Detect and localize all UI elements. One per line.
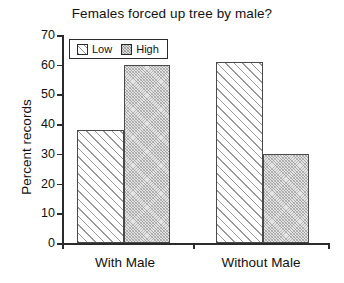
legend-swatch-high-icon [121, 44, 132, 55]
y-axis-spine [62, 35, 64, 243]
y-tick-label-60: 60 [41, 59, 55, 71]
y-axis-label: Percent records [20, 57, 34, 237]
x-axis-spine [62, 243, 330, 245]
x-group-label-without-male: Without Male [222, 255, 301, 271]
y-tick-label-50: 50 [41, 88, 55, 100]
x-tick-middle [193, 243, 195, 249]
chart-title: Females forced up tree by male? [0, 6, 344, 22]
y-tick-label-70: 70 [41, 29, 55, 41]
x-tick-left [62, 243, 64, 249]
legend-label-high: High [136, 43, 159, 55]
bar-without-male-high [263, 154, 309, 243]
legend-entry-high: High [121, 43, 159, 55]
x-tick-right [328, 243, 330, 249]
legend-label-low: Low [92, 43, 112, 55]
legend-entry-low: Low [77, 43, 112, 55]
bar-without-male-low [216, 62, 263, 243]
y-tick-label-0: 0 [48, 237, 55, 249]
y-tick-label-30: 30 [41, 148, 55, 160]
bar-with-male-high [124, 65, 170, 243]
y-tick-label-20: 20 [41, 178, 55, 190]
bar-with-male-low [77, 130, 124, 243]
chart-legend: Low High [69, 39, 168, 59]
y-tick-label-40: 40 [41, 118, 55, 130]
y-tick-label-10: 10 [41, 207, 55, 219]
x-group-label-with-male: With Male [95, 255, 155, 271]
legend-swatch-low-icon [77, 44, 88, 55]
plot-area: 0 10 20 30 40 50 60 70 [62, 35, 330, 243]
bar-chart-figure: Females forced up tree by male? Percent … [0, 0, 344, 283]
